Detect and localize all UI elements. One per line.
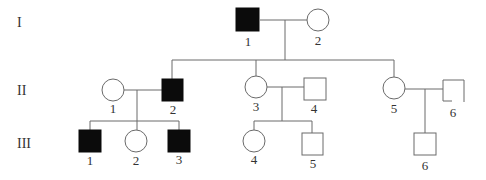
individual-II-3: [245, 76, 267, 98]
individual-III-1: [79, 130, 101, 152]
individual-number: 2: [315, 33, 322, 48]
individual-number: 3: [176, 152, 183, 167]
individual-III-3: [168, 130, 190, 152]
individual-II-5: [383, 77, 405, 99]
individual-III-4: [243, 130, 265, 152]
pedigree-chart: I II III 1 2 1 2 3 4 5 6 1 2 3 4 5 6: [0, 0, 486, 180]
individual-III-2: [125, 130, 147, 152]
generation-label-II: II: [17, 83, 27, 98]
individual-I-1: [236, 8, 259, 31]
individual-number: 3: [253, 99, 260, 114]
individual-number: 2: [170, 102, 177, 117]
individual-I-2: [307, 9, 329, 31]
individual-number: 2: [133, 153, 140, 168]
individual-II-6: [443, 80, 464, 102]
generation-label-III: III: [17, 136, 31, 151]
individual-number: 5: [310, 156, 317, 171]
individual-number: 1: [110, 101, 117, 116]
individual-II-2: [162, 79, 183, 101]
individual-III-6: [414, 133, 436, 155]
individual-number: 4: [251, 152, 258, 167]
individual-number: 1: [87, 153, 94, 168]
individual-number: 4: [311, 101, 318, 116]
individual-number: 6: [450, 105, 457, 120]
individual-II-1: [102, 79, 124, 101]
individual-number: 5: [391, 101, 398, 116]
individual-number: 1: [245, 34, 252, 49]
individual-number: 6: [422, 158, 429, 173]
individual-III-5: [302, 133, 323, 155]
generation-label-I: I: [17, 15, 22, 30]
individual-II-4: [304, 78, 326, 100]
